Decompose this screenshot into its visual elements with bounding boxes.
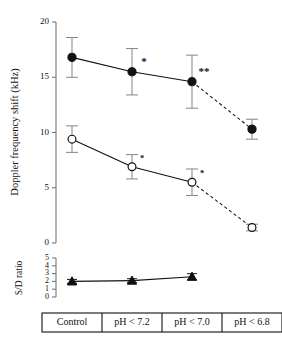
sd-axis-title: S/D ratio [14,260,24,295]
sd-tick-label: 3 [45,268,49,277]
doppler-marker-open-circle [68,135,76,143]
doppler-segment [192,82,252,130]
doppler-segment [72,139,132,167]
doppler-segment [192,182,252,227]
doppler-segment [72,57,132,71]
doppler-significance-marker: * [140,153,144,163]
doppler-tick-label: 15 [40,71,50,81]
sd-tick-label: 1 [45,284,49,293]
sd-segment [132,277,192,281]
category-label-1: Control [57,316,88,327]
doppler-segment [132,167,192,182]
figure-container: 05101520Doppler frequency shift (kHz)012… [0,0,282,352]
category-label-4: pH < 6.8 [234,316,269,327]
doppler-axis-title: Doppler frequency shift (kHz) [9,68,21,196]
doppler-marker-filled-circle [68,53,76,61]
doppler-segment [132,72,192,82]
doppler-marker-filled-circle [188,78,196,86]
doppler-marker-filled-circle [128,68,136,76]
doppler-significance-marker: ** [199,65,211,77]
sd-tick-label: 0 [45,292,49,301]
sd-tick-label: 5 [45,253,49,262]
doppler-tick-label: 0 [45,237,50,247]
sd-tick-label: 4 [45,261,49,270]
doppler-marker-open-circle [248,224,256,232]
category-label-3: pH < 7.0 [174,316,209,327]
doppler-significance-marker: * [200,168,204,178]
doppler-tick-label: 10 [40,127,50,137]
doppler-tick-label: 20 [40,16,50,26]
sd-tick-label: 2 [45,276,49,285]
doppler-significance-marker: * [141,55,147,67]
sd-segment [72,281,132,282]
doppler-marker-open-circle [128,163,136,171]
doppler-marker-open-circle [188,178,196,186]
category-label-2: pH < 7.2 [114,316,149,327]
chart-canvas: 05101520Doppler frequency shift (kHz)012… [0,0,282,352]
doppler-marker-filled-circle [248,125,256,133]
doppler-tick-label: 5 [45,182,50,192]
